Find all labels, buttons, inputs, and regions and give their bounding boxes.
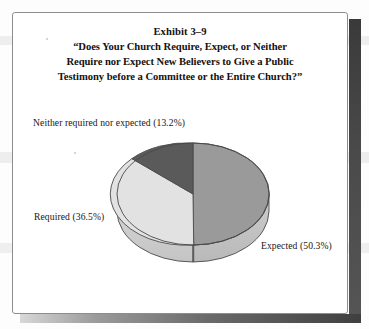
exhibit-number: Exhibit 3–9: [20, 24, 340, 39]
exhibit-title-line-1: “Does Your Church Require, Expect, or Ne…: [20, 39, 340, 54]
pie-chart: [108, 132, 288, 277]
frame-drop-shadow-right: [349, 19, 361, 321]
exhibit-page: Exhibit 3–9 “Does Your Church Require, E…: [0, 0, 369, 329]
pie-label-expected: Expected (50.3%): [261, 240, 332, 251]
scan-speck: [74, 152, 76, 154]
exhibit-title-block: Exhibit 3–9 “Does Your Church Require, E…: [20, 24, 340, 85]
pie-label-neither: Neither required nor expected (13.2%): [33, 117, 185, 128]
frame-drop-shadow-bottom: [20, 314, 361, 323]
pie-label-required: Required (36.5%): [34, 211, 104, 222]
pie-chart-svg: [108, 132, 288, 277]
exhibit-title-line-3: Testimony before a Committee or the Enti…: [20, 69, 340, 84]
exhibit-title-line-2: Require nor Expect New Believers to Give…: [20, 54, 340, 69]
